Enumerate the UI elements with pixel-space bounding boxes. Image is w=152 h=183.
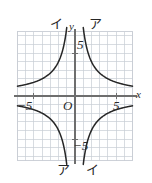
curve-label-i-bottom-right: イ — [86, 163, 99, 176]
hyperbola-graph-figure: y x O 5 −5 −5 5 イ ア ア イ — [0, 0, 152, 183]
curve-label-a-bottom-left: ア — [57, 163, 70, 176]
x-axis-label: x — [136, 89, 141, 100]
origin-label: O — [63, 99, 72, 112]
y-axis-label: y — [69, 21, 74, 32]
x-tick-label-5: 5 — [113, 99, 120, 112]
curve-label-a-top-right: ア — [89, 17, 102, 30]
x-tick-label-minus5: −5 — [17, 99, 32, 112]
y-tick-label-minus5: −5 — [73, 139, 88, 152]
curve-label-i-top-left: イ — [50, 17, 63, 30]
plot-canvas — [0, 0, 152, 183]
y-tick-label-5: 5 — [77, 38, 84, 51]
